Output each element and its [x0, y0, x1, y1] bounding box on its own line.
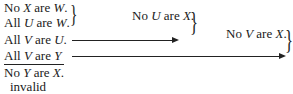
premise-1-period: . — [64, 0, 67, 15]
brace-premises-1-2: } — [70, 3, 77, 25]
premise-4-subject: V — [24, 48, 32, 63]
premise-3-copula: are — [32, 32, 54, 47]
premise-1-predicate: W — [53, 0, 64, 15]
arrow-line-premise-4 — [72, 56, 282, 57]
brace-intermediate-1: } — [190, 11, 198, 33]
conclusion-quantifier: No — [4, 65, 23, 80]
intermediate-conclusion-1: No U are X. — [132, 9, 194, 23]
premise-3-subject: V — [24, 32, 32, 47]
premise-4-copula: are — [32, 48, 54, 63]
intermediate-2-quantifier: No — [226, 26, 245, 41]
premise-2-predicate: W — [56, 15, 67, 30]
intermediate-1-copula: are — [161, 8, 183, 23]
verdict-label: invalid — [10, 80, 46, 94]
premise-3-period: . — [64, 32, 67, 47]
intermediate-2-copula: are — [253, 26, 275, 41]
premise-2-subject: U — [24, 15, 33, 30]
premise-4-quantifier: All — [4, 48, 24, 63]
intermediate-conclusion-2: No V are X. — [226, 27, 287, 41]
conclusion-copula: are — [30, 65, 52, 80]
premise-3: All V are U. — [4, 33, 67, 47]
premise-1-subject: X — [23, 0, 31, 15]
premise-3-quantifier: All — [4, 32, 24, 47]
premise-4: All V are Y — [4, 49, 61, 63]
premise-2-copula: are — [33, 15, 55, 30]
brace-intermediate-2: } — [285, 29, 293, 51]
premise-1: No X are W. — [4, 1, 68, 15]
conclusion-period: . — [61, 65, 64, 80]
arrow-head-premise-3 — [172, 37, 179, 43]
arrow-line-premise-3 — [72, 40, 172, 41]
intermediate-2-subject: V — [245, 26, 253, 41]
premise-3-predicate: U — [54, 32, 63, 47]
intermediate-1-quantifier: No — [132, 8, 151, 23]
conclusion-predicate: X — [53, 65, 61, 80]
premise-2: All U are W. — [4, 16, 70, 30]
conclusion: No Y are X. — [4, 66, 64, 80]
premise-1-quantifier: No — [4, 0, 23, 15]
premise-1-copula: are — [31, 0, 53, 15]
intermediate-1-subject: U — [151, 8, 160, 23]
premise-4-predicate: Y — [54, 48, 61, 63]
premise-2-quantifier: All — [4, 15, 24, 30]
